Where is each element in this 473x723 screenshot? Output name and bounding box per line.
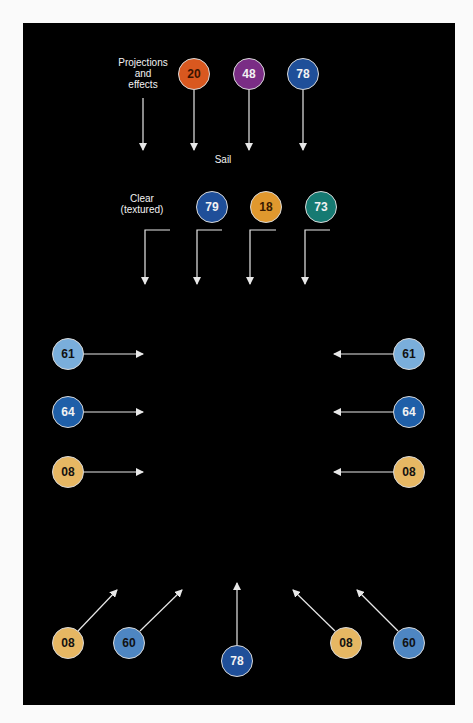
badge-mid-79: 79 (196, 191, 228, 223)
badge-bottom-78: 78 (221, 645, 253, 677)
arrow-a79 (197, 230, 222, 284)
badge-right-64: 64 (393, 396, 425, 428)
badge-bottom-08-left: 08 (52, 627, 84, 659)
badge-top-48: 48 (233, 58, 265, 90)
arrow-clear (145, 230, 170, 284)
label-line: Projections (113, 57, 173, 68)
label-line: (textured) (112, 204, 172, 215)
badge-right-08: 08 (393, 456, 425, 488)
badge-top-20: 20 (178, 58, 210, 90)
label-line: and (113, 68, 173, 79)
arrow-b60l (140, 590, 182, 631)
sail-label: Sail (208, 154, 238, 165)
arrow-b08l (78, 590, 117, 631)
arrow-a73 (305, 230, 330, 284)
badge-left-61: 61 (52, 338, 84, 370)
arrow-a18 (250, 230, 276, 284)
clear-textured-label: Clear (textured) (112, 193, 172, 215)
arrow-b08r (293, 590, 335, 631)
badge-mid-73: 73 (305, 191, 337, 223)
arrow-b60r (357, 590, 398, 631)
badge-right-61: 61 (393, 338, 425, 370)
badge-mid-18: 18 (250, 191, 282, 223)
badge-bottom-60-left: 60 (113, 627, 145, 659)
label-line: Clear (112, 193, 172, 204)
projections-effects-label: Projections and effects (113, 57, 173, 90)
badge-top-78: 78 (287, 58, 319, 90)
badge-bottom-60-right: 60 (393, 627, 425, 659)
badge-left-08: 08 (52, 456, 84, 488)
label-line: effects (113, 79, 173, 90)
badge-bottom-08-right: 08 (330, 627, 362, 659)
badge-left-64: 64 (52, 396, 84, 428)
